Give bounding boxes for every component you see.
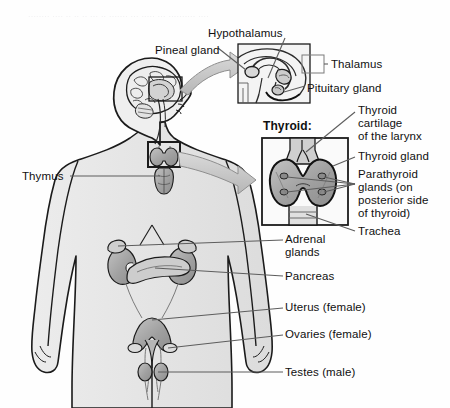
parathyroid-gland-shape bbox=[318, 173, 326, 179]
thalamus-shape bbox=[276, 69, 291, 84]
label-hypothalamus: Hypothalamus bbox=[208, 27, 283, 40]
label-ovaries-female: Ovaries (female) bbox=[285, 328, 372, 341]
label-thyroid-cartilage: Thyroid cartilage of the larynx bbox=[358, 104, 422, 143]
label-trachea: Trachea bbox=[358, 225, 400, 238]
label-adrenal-glands: Adrenal glands bbox=[285, 233, 325, 259]
label-pancreas: Pancreas bbox=[285, 270, 334, 283]
label-pituitary-gland: Pituitary gland bbox=[307, 82, 381, 95]
label-testes-male: Testes (male) bbox=[285, 366, 355, 379]
thymus-gland bbox=[155, 168, 174, 194]
label-pineal-gland: Pineal gland bbox=[155, 44, 220, 57]
label-thalamus: Thalamus bbox=[331, 58, 382, 71]
label-parathyroid-glands: Parathyroid glands (on posterior side of… bbox=[358, 168, 428, 220]
endocrine-diagram-figure: ........ .... .. .. .. ... .. ....... ..… bbox=[0, 0, 450, 408]
pineal-gland-shape bbox=[245, 67, 259, 78]
label-thymus: Thymus bbox=[22, 170, 64, 183]
label-uterus-female: Uterus (female) bbox=[285, 301, 366, 314]
label-thyroid-inset-title: Thyroid: bbox=[263, 120, 312, 133]
pituitary-gland-shape bbox=[272, 85, 284, 95]
head-profile bbox=[114, 58, 191, 145]
label-thyroid-gland: Thyroid gland bbox=[358, 150, 429, 163]
parathyroid-gland-shape bbox=[280, 173, 288, 179]
